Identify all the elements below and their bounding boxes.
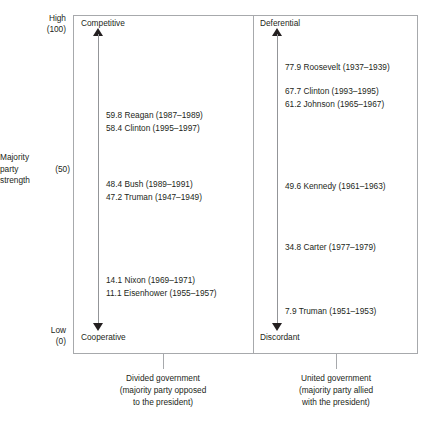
arrow-down-icon bbox=[93, 323, 103, 331]
caption-line: United government bbox=[256, 373, 416, 385]
x-axis-tick-divided bbox=[163, 354, 164, 369]
right-panel-bottom-pole-label: Discordant bbox=[260, 332, 300, 343]
right-panel-top-pole-label: Deferential bbox=[260, 18, 300, 29]
left-panel-top-pole-label: Competitive bbox=[81, 18, 125, 29]
x-axis-caption-united: United government (majority party allied… bbox=[256, 373, 416, 408]
y-axis-mid-value: (50) bbox=[49, 164, 70, 176]
y-axis-mid-line2: party (50) bbox=[0, 164, 70, 176]
x-axis-caption-divided: Divided government (majority party oppos… bbox=[83, 373, 243, 408]
y-axis-mid-line1: Majority bbox=[0, 152, 70, 164]
y-axis-mid-line2-text: party bbox=[0, 164, 18, 176]
data-point-label: 14.1 Nixon (1969–1971) bbox=[106, 275, 195, 286]
right-panel-axis-arrow bbox=[271, 28, 284, 331]
data-point-label: 11.1 Eisenhower (1955–1957) bbox=[106, 288, 217, 299]
data-point-label: 61.2 Johnson (1965–1967) bbox=[285, 99, 384, 110]
data-point-label: 67.7 Clinton (1993–1995) bbox=[285, 86, 379, 97]
caption-line: Divided government bbox=[83, 373, 243, 385]
data-point-label: 77.9 Roosevelt (1937–1939) bbox=[285, 62, 390, 73]
data-point-label: 49.6 Kennedy (1961–1963) bbox=[285, 181, 386, 192]
arrow-down-icon bbox=[272, 323, 282, 331]
figure-container: High (100) Majority party (50) strength … bbox=[0, 0, 443, 424]
data-point-label: 58.4 Clinton (1995–1997) bbox=[106, 123, 200, 134]
caption-line: with the president) bbox=[256, 397, 416, 409]
panel-divider bbox=[253, 15, 254, 354]
y-axis-low-text: Low bbox=[0, 325, 66, 336]
data-point-label: 48.4 Bush (1989–1991) bbox=[106, 179, 193, 190]
data-point-label: 47.2 Truman (1947–1949) bbox=[106, 192, 202, 203]
y-axis-high-text: High bbox=[0, 13, 66, 24]
caption-line: to the president) bbox=[83, 397, 243, 409]
axis-shaft bbox=[277, 34, 278, 325]
y-axis-mid-line3: strength bbox=[0, 175, 70, 187]
data-point-label: 34.8 Carter (1977–1979) bbox=[285, 242, 376, 253]
y-axis-low-label: Low (0) bbox=[0, 325, 66, 348]
left-panel-axis-arrow bbox=[92, 28, 105, 331]
y-axis-high-label: High (100) bbox=[0, 13, 66, 36]
caption-line: (majority party opposed bbox=[83, 385, 243, 397]
left-panel-bottom-pole-label: Cooperative bbox=[81, 332, 126, 343]
data-point-label: 59.8 Reagan (1987–1989) bbox=[106, 110, 203, 121]
y-axis-mid-label: Majority party (50) strength bbox=[0, 152, 70, 187]
axis-shaft bbox=[98, 34, 99, 325]
y-axis-low-value: (0) bbox=[0, 336, 66, 347]
caption-line: (majority party allied bbox=[256, 385, 416, 397]
data-point-label: 7.9 Truman (1951–1953) bbox=[285, 306, 376, 317]
y-axis-high-value: (100) bbox=[0, 24, 66, 35]
x-axis-tick-united bbox=[336, 354, 337, 369]
